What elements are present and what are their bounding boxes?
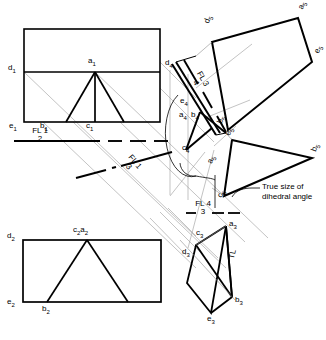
note-line-2: dihedral angle (262, 192, 312, 202)
view-3-shape (187, 226, 232, 313)
label-c2a2: c2a2 (73, 226, 88, 236)
label-b2: b2 (42, 305, 50, 315)
label-d3: d3 (182, 248, 190, 258)
drawing-svg (0, 0, 326, 340)
label-c4: c4 (182, 144, 189, 154)
fold-line-4-3-label: FL 4 3 (188, 200, 218, 217)
label-d2: d2 (7, 232, 15, 242)
view-2-triangle (47, 240, 128, 302)
label-a4: a4 (179, 111, 187, 121)
label-b3: b3 (235, 296, 243, 306)
label-e1: e1 (9, 122, 17, 132)
view-2-outline (23, 240, 161, 302)
view-5-upper-shape (212, 18, 312, 130)
label-c3: c3 (196, 229, 203, 239)
label-c1: c1 (86, 122, 93, 132)
fold-line-1-2-label: FL 1 2 (25, 127, 55, 144)
projector-lines (24, 44, 268, 268)
note-line-1: True size of (262, 182, 312, 192)
label-e4: e4 (180, 97, 188, 107)
label-e3: e3 (207, 315, 215, 325)
label-d1: d1 (8, 64, 16, 74)
view-1-triangle (66, 72, 124, 122)
label-d4: d4 (165, 59, 173, 69)
dihedral-angle-note: True size of dihedral angle (262, 182, 312, 202)
technical-drawing-canvas: d1 a1 e1 b1 c1 FL 1 2 FL 1 3 d2 c2a2 e2 … (0, 0, 326, 340)
label-e2: e2 (7, 298, 15, 308)
label-b4: b4 (191, 111, 199, 121)
label-a1: a1 (88, 57, 96, 67)
label-a3: a3 (229, 220, 237, 230)
